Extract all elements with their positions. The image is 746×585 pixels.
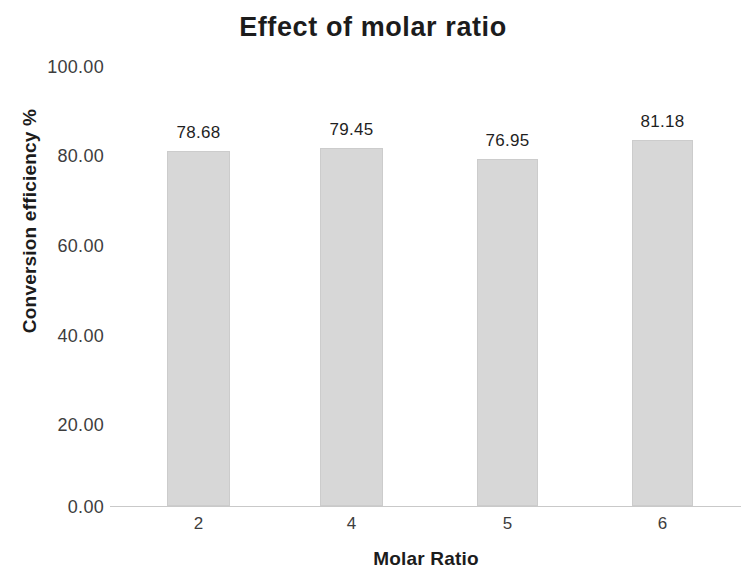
bar-category-5 — [477, 159, 538, 506]
y-tick-label-60: 60.00 — [57, 236, 104, 257]
x-tick-label-5: 5 — [446, 514, 569, 534]
y-tick-label-40: 40.00 — [57, 326, 104, 347]
y-tick-label-20: 20.00 — [57, 415, 104, 436]
bar-value-label-4: 79.45 — [290, 120, 413, 140]
bar-value-label-6: 81.18 — [601, 112, 724, 132]
y-tick-label-100: 100.00 — [47, 57, 104, 78]
chart-title: Effect of molar ratio — [0, 12, 746, 43]
bar-value-label-2: 78.68 — [137, 123, 260, 143]
y-tick-label-80: 80.00 — [57, 146, 104, 167]
bar-chart: Effect of molar ratio Conversion efficie… — [0, 0, 746, 585]
x-axis-title: Molar Ratio — [110, 548, 742, 570]
bar-category-2 — [167, 151, 230, 506]
x-tick-label-2: 2 — [137, 514, 260, 534]
bar-value-label-5: 76.95 — [446, 131, 569, 151]
y-axis-title: Conversion efficiency % — [19, 71, 41, 371]
y-tick-label-0: 0.00 — [68, 497, 104, 518]
x-tick-label-4: 4 — [290, 514, 413, 534]
bar-category-4 — [320, 148, 383, 506]
bar-category-6 — [632, 140, 693, 506]
x-axis-baseline — [110, 506, 741, 507]
x-tick-label-6: 6 — [601, 514, 724, 534]
